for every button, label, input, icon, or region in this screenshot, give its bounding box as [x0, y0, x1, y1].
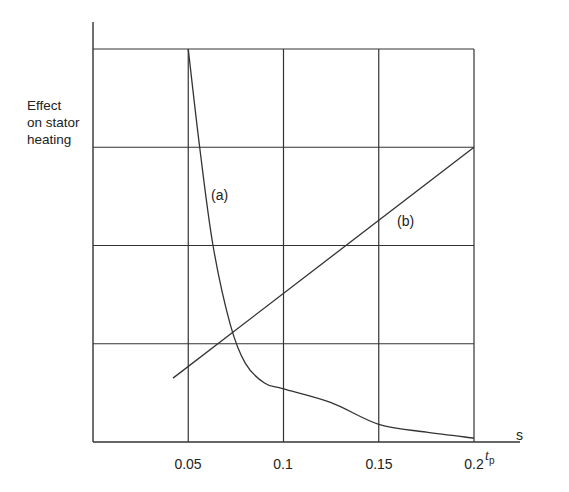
grid-lines	[93, 49, 474, 442]
y-axis-label-line-2: on stator	[27, 114, 80, 131]
x-axis-label: tp	[485, 448, 494, 466]
y-axis-label: Effect on stator heating	[27, 97, 80, 148]
y-axis-label-line-1: Effect	[27, 97, 80, 114]
series-b-label: (b)	[397, 213, 414, 229]
chart-plot-area	[0, 0, 569, 492]
axes	[93, 22, 520, 442]
x-axis-unit: s	[516, 427, 523, 443]
y-axis-label-line-3: heating	[27, 131, 80, 148]
series-a-line	[188, 49, 474, 438]
x-tick-label: 0.2	[464, 456, 483, 472]
x-tick-label: 0.15	[365, 456, 392, 472]
series-a-label: (a)	[211, 187, 228, 203]
x-axis-label-subscript: p	[489, 455, 495, 466]
x-tick-label: 0.05	[174, 456, 201, 472]
x-tick-label: 0.1	[273, 456, 292, 472]
series-lines	[173, 49, 474, 438]
